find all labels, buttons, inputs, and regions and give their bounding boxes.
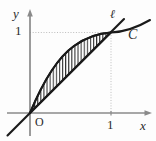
x-axis-arrowhead (145, 110, 153, 116)
y-axis-label: y (13, 7, 19, 20)
x-axis-label: x (140, 119, 146, 132)
x-tick-label-1: 1 (107, 118, 114, 131)
curve-label-c: C (128, 28, 137, 42)
region-lower-boundary (30, 33, 111, 114)
math-figure: y x C ℓ O 1 1 (0, 0, 156, 141)
y-tick-label-1: 1 (15, 24, 22, 37)
figure-svg (0, 0, 156, 141)
y-axis-arrowhead (27, 9, 33, 17)
origin-label: O (35, 116, 44, 128)
line-label-l: ℓ (110, 8, 115, 20)
